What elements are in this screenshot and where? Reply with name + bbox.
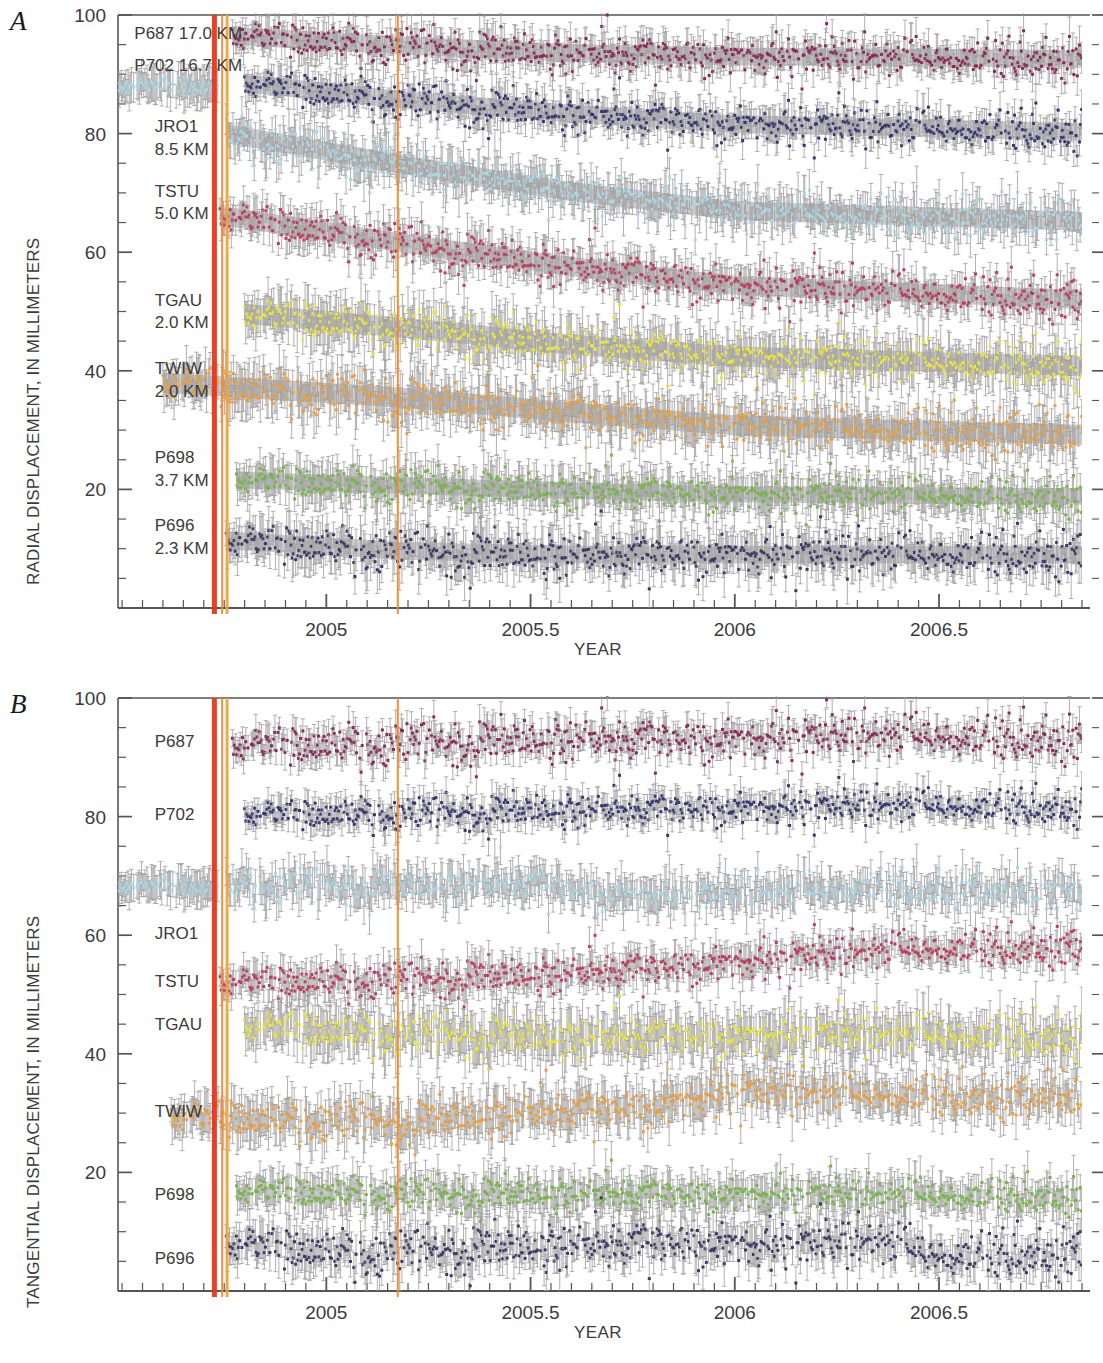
data-point xyxy=(268,1251,271,1254)
data-point xyxy=(1075,1040,1078,1043)
data-point xyxy=(540,886,543,889)
data-point xyxy=(1025,1203,1028,1206)
data-point xyxy=(474,755,477,758)
data-point xyxy=(564,402,567,405)
data-point xyxy=(503,413,506,416)
data-point xyxy=(1002,1121,1005,1124)
data-point xyxy=(271,229,274,232)
data-point xyxy=(873,893,876,896)
y-axis-ticks-right xyxy=(1092,15,1103,578)
data-point xyxy=(1003,1252,1006,1255)
data-point xyxy=(1015,411,1018,414)
data-point xyxy=(310,403,313,406)
data-point xyxy=(316,236,319,239)
data-point xyxy=(862,503,865,506)
data-point xyxy=(1050,301,1053,304)
data-point xyxy=(956,892,959,895)
data-point xyxy=(298,809,301,812)
data-point xyxy=(894,1195,897,1198)
data-point xyxy=(446,879,449,882)
data-point xyxy=(380,754,383,757)
data-point xyxy=(589,1179,592,1182)
data-point xyxy=(688,558,691,561)
data-point xyxy=(506,1257,509,1260)
data-point xyxy=(253,164,256,167)
data-point xyxy=(892,123,895,126)
data-point xyxy=(368,191,371,194)
data-point xyxy=(615,206,618,209)
data-point xyxy=(812,69,815,72)
data-point xyxy=(916,541,919,544)
data-point xyxy=(990,314,993,317)
data-point xyxy=(762,1039,765,1042)
data-point xyxy=(645,121,648,124)
data-point xyxy=(417,824,420,827)
data-point xyxy=(543,410,546,413)
data-point xyxy=(1020,50,1023,53)
data-point xyxy=(612,316,615,319)
data-point xyxy=(356,732,359,735)
data-point xyxy=(377,167,380,170)
data-point xyxy=(1080,1209,1083,1212)
data-point xyxy=(681,424,684,427)
data-point xyxy=(230,1101,233,1104)
data-point xyxy=(870,814,873,817)
data-point xyxy=(535,411,538,414)
data-point xyxy=(1009,813,1012,816)
data-point xyxy=(921,1237,924,1240)
data-point xyxy=(355,1253,358,1256)
data-point xyxy=(464,1056,467,1059)
data-point xyxy=(869,872,872,875)
data-point xyxy=(337,89,340,92)
data-point xyxy=(353,575,356,578)
data-point xyxy=(725,417,728,420)
data-point xyxy=(1062,528,1065,531)
data-point xyxy=(606,14,609,17)
data-point xyxy=(893,230,896,233)
data-point xyxy=(983,119,986,122)
data-point xyxy=(238,536,241,539)
data-point xyxy=(999,48,1002,51)
data-point xyxy=(769,1215,772,1218)
data-point xyxy=(775,709,778,712)
data-point xyxy=(349,905,352,908)
data-point xyxy=(920,212,923,215)
data-point xyxy=(355,751,358,754)
data-point xyxy=(313,225,316,228)
data-point xyxy=(300,891,303,894)
data-point xyxy=(949,735,952,738)
data-point xyxy=(422,485,425,488)
data-point xyxy=(442,1106,445,1109)
data-point xyxy=(361,744,364,747)
data-point xyxy=(962,805,965,808)
data-point xyxy=(253,76,256,79)
data-point xyxy=(515,326,518,329)
data-point xyxy=(1055,750,1058,753)
data-point xyxy=(403,968,406,971)
data-point xyxy=(901,191,904,194)
data-point xyxy=(776,557,779,560)
data-point xyxy=(930,446,933,449)
data-point xyxy=(462,1098,465,1101)
data-point xyxy=(434,84,437,87)
data-point xyxy=(230,379,233,382)
data-point xyxy=(641,1094,644,1097)
data-point xyxy=(680,877,683,880)
data-point xyxy=(721,46,724,49)
data-point xyxy=(953,745,956,748)
data-point xyxy=(411,1200,414,1203)
data-point xyxy=(1025,504,1028,507)
data-point xyxy=(951,217,954,220)
data-point xyxy=(338,731,341,734)
data-point xyxy=(383,894,386,897)
data-point xyxy=(960,1105,963,1108)
data-point xyxy=(526,188,529,191)
data-point xyxy=(1070,808,1073,811)
data-point xyxy=(332,533,335,536)
data-point xyxy=(393,312,396,315)
data-point xyxy=(488,1234,491,1237)
data-point xyxy=(847,535,850,538)
data-point xyxy=(635,276,638,279)
data-point xyxy=(1007,1071,1010,1074)
data-point xyxy=(912,136,915,139)
